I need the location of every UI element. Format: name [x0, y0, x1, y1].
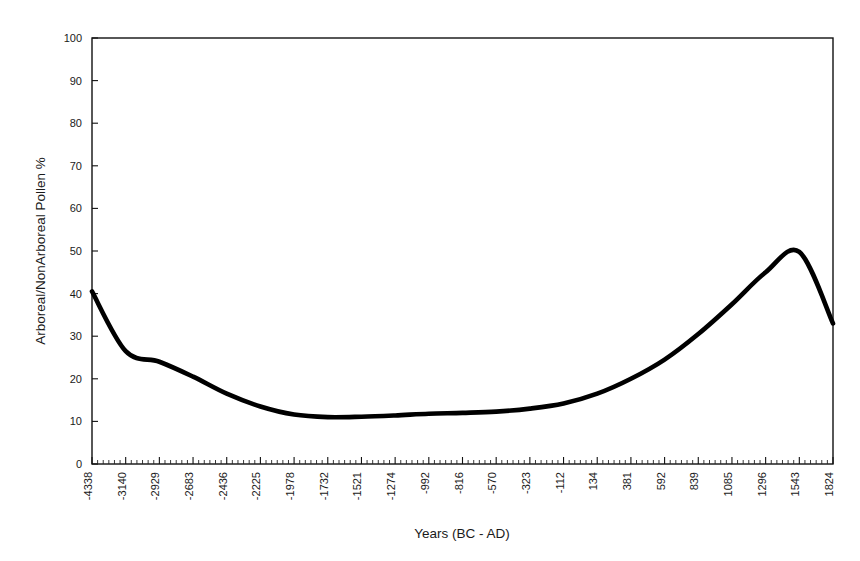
- x-axis-tick-label: 1085: [722, 472, 734, 496]
- pollen-percentage-curve: [92, 250, 833, 417]
- y-axis-tick-labels: 0102030405060708090100: [64, 32, 82, 470]
- x-axis-tick-label: 839: [688, 472, 700, 490]
- plot-frame: [92, 38, 833, 464]
- pollen-diagram-figure: 0102030405060708090100 -4338-3140-2929-2…: [0, 0, 860, 561]
- y-axis-tick-label: 20: [70, 373, 82, 385]
- x-axis-tick-label: -1274: [385, 472, 397, 500]
- y-axis-title: Arboreal/NonArboreal Pollen %: [33, 157, 48, 345]
- x-axis-tick-label: 381: [621, 472, 633, 490]
- y-axis-tick-label: 60: [70, 202, 82, 214]
- y-axis-ticks: [92, 38, 98, 464]
- x-axis-tick-label: -2929: [149, 472, 161, 500]
- x-axis-title: Years (BC - AD): [414, 526, 510, 541]
- y-axis-tick-label: 50: [70, 245, 82, 257]
- x-axis-tick-label: -992: [419, 472, 431, 494]
- x-axis-tick-label: -1978: [284, 472, 296, 500]
- x-axis-tick-label: -2436: [217, 472, 229, 500]
- y-axis-tick-label: 0: [76, 458, 82, 470]
- x-axis-tick-label: 1296: [756, 472, 768, 496]
- x-axis-tick-label: -2225: [250, 472, 262, 500]
- x-axis-tick-labels: -4338-3140-2929-2683-2436-2225-1978-1732…: [82, 472, 835, 500]
- x-axis-tick-label: -2683: [183, 472, 195, 500]
- x-axis-ticks: [92, 457, 833, 464]
- y-axis-tick-label: 90: [70, 75, 82, 87]
- x-axis-tick-label: -1521: [351, 472, 363, 500]
- data-series-group: [92, 250, 833, 417]
- y-axis-tick-label: 30: [70, 330, 82, 342]
- x-axis-tick-label: -816: [453, 472, 465, 494]
- y-axis-tick-label: 10: [70, 415, 82, 427]
- x-axis-tick-label: -112: [554, 472, 566, 493]
- x-axis-tick-label: -323: [520, 472, 532, 494]
- x-axis-tick-label: -1732: [318, 472, 330, 500]
- x-axis-tick-label: 592: [655, 472, 667, 490]
- chart-canvas: 0102030405060708090100 -4338-3140-2929-2…: [0, 0, 860, 561]
- x-axis-tick-label: -3140: [116, 472, 128, 500]
- y-axis-tick-label: 80: [70, 117, 82, 129]
- x-axis-tick-label: -570: [486, 472, 498, 494]
- y-axis-tick-label: 70: [70, 160, 82, 172]
- x-axis-tick-label: 1543: [789, 472, 801, 496]
- y-axis-tick-label: 100: [64, 32, 82, 44]
- x-axis-tick-label: -4338: [82, 472, 94, 500]
- x-axis-tick-label: 134: [587, 472, 599, 490]
- y-axis-tick-label: 40: [70, 288, 82, 300]
- x-axis-tick-label: 1824: [823, 472, 835, 496]
